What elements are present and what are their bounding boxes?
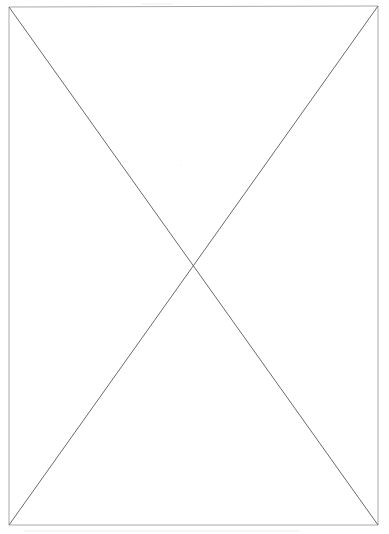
scanned-sheet	[0, 0, 389, 534]
scan-speck-upper-center-icon	[180, 164, 182, 166]
crossed-box-placeholder-figure	[0, 0, 389, 534]
page-root	[0, 0, 389, 534]
